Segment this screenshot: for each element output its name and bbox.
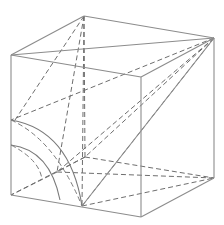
edge-AB [84, 16, 214, 38]
cube-diagram [0, 0, 224, 225]
dash-HP [57, 157, 85, 172]
edge-AC [11, 16, 84, 55]
hidden-lines [11, 16, 214, 206]
dash-PE [11, 172, 57, 195]
visible-lines [11, 16, 214, 217]
arc-dashed-small [11, 145, 42, 180]
arc-outer [11, 120, 82, 206]
dash-NG [82, 178, 214, 206]
diag-BF [82, 38, 214, 206]
dash-PG [57, 172, 214, 178]
hidden-edge-AH [84, 16, 85, 157]
diag-CB [11, 38, 214, 55]
edge-FG [141, 178, 214, 217]
dash-BM [11, 38, 214, 120]
dash-AP [57, 16, 84, 172]
dash-AN [82, 16, 84, 206]
edge-EF [11, 195, 141, 217]
arc-dashed-inner [11, 120, 82, 206]
hidden-edge-HG [85, 157, 214, 178]
dash-BH [85, 38, 214, 157]
dash-BP [57, 38, 214, 172]
edge-CD [11, 55, 141, 77]
